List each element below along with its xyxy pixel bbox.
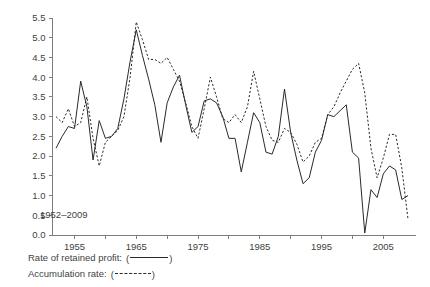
legend-key-dashed: () [111, 268, 155, 280]
series-line-rate-of-retained-profit [56, 30, 408, 233]
period-annotation: 1952–2009 [40, 209, 88, 220]
y-tick-label: 0.0 [32, 229, 45, 240]
x-tick-label: 2005 [373, 241, 394, 252]
y-tick-label: 5.5 [32, 12, 45, 23]
line-chart: 0.00.51.01.52.02.53.03.54.04.55.05.5 195… [0, 0, 430, 287]
x-tick-label: 1955 [64, 241, 85, 252]
legend-close-paren-solid: ) [169, 253, 172, 264]
legend-close-paren-dashed: ) [152, 269, 155, 280]
legend-key-solid: () [126, 252, 172, 264]
x-tick-label: 1985 [249, 241, 270, 252]
x-tick-label: 1975 [187, 241, 208, 252]
legend-line-sample-dashed [115, 273, 151, 274]
legend-open-paren-dashed: ( [111, 269, 114, 280]
y-axis-ticks: 0.00.51.01.52.02.53.03.54.04.55.05.5 [32, 12, 52, 240]
y-tick-label: 4.0 [32, 72, 45, 83]
y-tick-label: 4.5 [32, 52, 45, 63]
y-tick-label: 1.0 [32, 190, 45, 201]
y-tick-label: 3.0 [32, 111, 45, 122]
y-tick-label: 1.5 [32, 170, 45, 181]
legend-line-sample-solid [130, 257, 168, 258]
x-tick-label: 1965 [126, 241, 147, 252]
y-tick-label: 2.5 [32, 131, 45, 142]
x-tick-label: 1995 [311, 241, 332, 252]
x-axis-ticks: 195519651975198519952005 [64, 235, 394, 252]
legend-item-accumulation-rate: Accumulation rate:() [28, 268, 155, 280]
y-tick-label: 3.5 [32, 91, 45, 102]
legend-open-paren-solid: ( [126, 253, 129, 264]
series-line-accumulation-rate [56, 22, 408, 219]
y-tick-label: 5.0 [32, 32, 45, 43]
legend-label-rate-of-retained-profit: Rate of retained profit: [28, 252, 122, 263]
legend-label-accumulation-rate: Accumulation rate: [28, 268, 107, 279]
legend-item-rate-of-retained-profit: Rate of retained profit:() [28, 252, 172, 264]
y-tick-label: 2.0 [32, 150, 45, 161]
chart-figure: 0.00.51.01.52.02.53.03.54.04.55.05.5 195… [0, 0, 430, 287]
